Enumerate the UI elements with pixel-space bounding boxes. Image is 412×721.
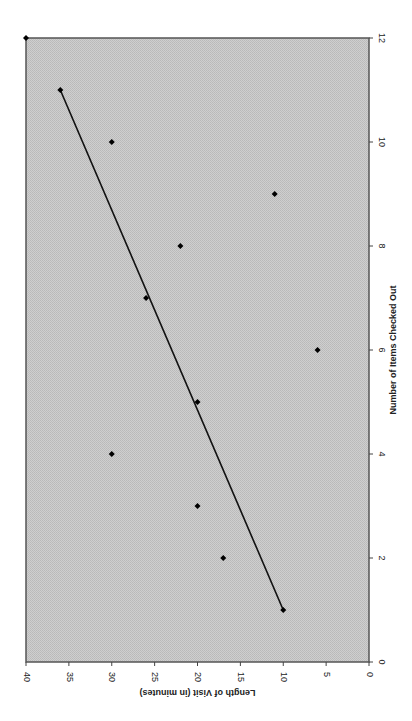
x-tick-label: 2 <box>377 555 387 560</box>
x-tick-label: 12 <box>377 33 387 43</box>
y-tick-label: 40 <box>22 672 32 682</box>
x-axis-ticks: 024681012 <box>369 33 387 665</box>
y-tick-label: 30 <box>107 672 117 682</box>
x-tick-label: 4 <box>377 451 387 456</box>
x-tick-label: 10 <box>377 137 387 147</box>
y-axis-ticks: 0510152025303540 <box>22 662 375 682</box>
x-tick-label: 0 <box>377 659 387 664</box>
y-tick-label: 0 <box>365 672 375 677</box>
x-tick-label: 6 <box>377 347 387 352</box>
y-tick-label: 10 <box>279 672 289 682</box>
x-tick-label: 8 <box>377 243 387 248</box>
y-tick-label: 25 <box>150 672 160 682</box>
y-axis-label: Length of Visit (in minutes) <box>140 688 256 698</box>
x-axis-label: Number of Items Checked Out <box>388 285 398 414</box>
rotated-scatter-chart: 0510152025303540 024681012 Length of Vis… <box>0 0 412 721</box>
y-tick-label: 5 <box>322 672 332 677</box>
y-tick-label: 15 <box>236 672 246 682</box>
chart-canvas: 0510152025303540 024681012 Length of Vis… <box>0 0 412 721</box>
y-tick-label: 35 <box>65 672 75 682</box>
y-tick-label: 20 <box>193 672 203 682</box>
